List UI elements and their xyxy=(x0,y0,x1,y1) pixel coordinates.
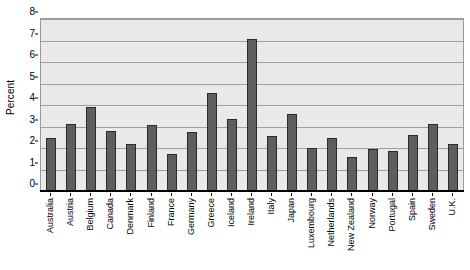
x-slot-austria: Austria xyxy=(60,193,80,267)
y-tick-mark-8 xyxy=(35,12,38,13)
bar-france xyxy=(167,154,177,191)
y-tick-mark-7 xyxy=(35,33,38,34)
x-slot-portugal: Portugal xyxy=(382,193,402,267)
bar-slot-denmark xyxy=(121,19,141,191)
plot-area xyxy=(40,18,464,192)
x-tick-label-netherlands: Netherlands xyxy=(327,198,336,247)
bar-slot-germany xyxy=(182,19,202,191)
bar-slot-italy xyxy=(262,19,282,191)
bar-chart-figure: Percent 012345678 AustraliaAustriaBelgiu… xyxy=(0,0,470,270)
y-tick-mark-0 xyxy=(35,184,38,185)
y-axis-tick-labels: 012345678 xyxy=(22,12,38,192)
x-tick-label-norway: Norway xyxy=(367,198,376,229)
y-axis-title-text: Percent xyxy=(6,80,17,115)
y-tick-mark-2 xyxy=(35,141,38,142)
x-tick-mark-12 xyxy=(291,193,292,196)
bar-sweden xyxy=(428,124,438,191)
x-tick-label-germany: Germany xyxy=(186,198,195,235)
x-tick-label-luxembourg: Luxembourg xyxy=(307,198,316,248)
y-tick-mark-1 xyxy=(35,162,38,163)
x-tick-mark-7 xyxy=(191,193,192,196)
bar-luxembourg xyxy=(307,148,317,191)
x-tick-mark-17 xyxy=(392,193,393,196)
x-tick-label-ireland: Ireland xyxy=(246,198,255,226)
bar-slot-new-zealand xyxy=(342,19,362,191)
x-tick-label-u-k: U.K. xyxy=(447,198,456,216)
bar-slot-france xyxy=(162,19,182,191)
bar-portugal xyxy=(388,151,398,191)
x-tick-mark-0 xyxy=(50,193,51,196)
x-tick-mark-3 xyxy=(110,193,111,196)
x-slot-greece: Greece xyxy=(201,193,221,267)
x-tick-mark-5 xyxy=(151,193,152,196)
x-tick-label-new-zealand: New Zealand xyxy=(347,198,356,251)
y-tick-mark-3 xyxy=(35,119,38,120)
x-slot-canada: Canada xyxy=(100,193,120,267)
bar-slot-australia xyxy=(41,19,61,191)
bar-japan xyxy=(287,114,297,191)
x-tick-label-denmark: Denmark xyxy=(126,198,135,235)
bar-slot-canada xyxy=(101,19,121,191)
x-tick-mark-10 xyxy=(251,193,252,196)
x-slot-spain: Spain xyxy=(402,193,422,267)
x-slot-iceland: Iceland xyxy=(221,193,241,267)
x-tick-label-belgium: Belgium xyxy=(86,198,95,231)
bar-slot-finland xyxy=(141,19,161,191)
bar-greece xyxy=(207,93,217,191)
x-tick-mark-16 xyxy=(372,193,373,196)
x-tick-mark-2 xyxy=(90,193,91,196)
bar-slot-japan xyxy=(282,19,302,191)
x-tick-mark-9 xyxy=(231,193,232,196)
bar-slot-austria xyxy=(61,19,81,191)
bar-slot-netherlands xyxy=(322,19,342,191)
x-tick-label-canada: Canada xyxy=(106,198,115,230)
bar-denmark xyxy=(126,144,136,191)
bar-slot-portugal xyxy=(383,19,403,191)
x-slot-germany: Germany xyxy=(181,193,201,267)
bar-u-k xyxy=(448,144,458,191)
x-tick-label-italy: Italy xyxy=(267,198,276,215)
x-tick-mark-4 xyxy=(130,193,131,196)
x-slot-france: France xyxy=(161,193,181,267)
x-tick-label-france: France xyxy=(166,198,175,226)
x-slot-sweden: Sweden xyxy=(422,193,442,267)
x-slot-new-zealand: New Zealand xyxy=(341,193,361,267)
x-slot-luxembourg: Luxembourg xyxy=(301,193,321,267)
x-tick-mark-14 xyxy=(331,193,332,196)
x-tick-mark-13 xyxy=(311,193,312,196)
bar-italy xyxy=(267,136,277,191)
bar-slot-greece xyxy=(202,19,222,191)
bar-slot-u-k xyxy=(443,19,463,191)
x-tick-label-austria: Austria xyxy=(66,198,75,226)
bar-slot-spain xyxy=(403,19,423,191)
x-tick-label-portugal: Portugal xyxy=(387,198,396,232)
x-slot-japan: Japan xyxy=(281,193,301,267)
bar-spain xyxy=(408,135,418,191)
x-slot-finland: Finland xyxy=(140,193,160,267)
x-slot-ireland: Ireland xyxy=(241,193,261,267)
x-tick-label-iceland: Iceland xyxy=(226,198,235,227)
x-tick-label-spain: Spain xyxy=(407,198,416,221)
x-tick-mark-15 xyxy=(351,193,352,196)
x-tick-mark-8 xyxy=(211,193,212,196)
x-tick-label-japan: Japan xyxy=(287,198,296,223)
bar-austria xyxy=(66,124,76,191)
x-tick-label-sweden: Sweden xyxy=(427,198,436,231)
bar-ireland xyxy=(247,39,257,191)
x-slot-u-k: U.K. xyxy=(442,193,462,267)
x-tick-mark-18 xyxy=(412,193,413,196)
bar-slot-iceland xyxy=(222,19,242,191)
x-tick-mark-1 xyxy=(70,193,71,196)
x-axis-line xyxy=(40,190,464,192)
y-tick-mark-6 xyxy=(35,55,38,56)
x-tick-mark-11 xyxy=(271,193,272,196)
x-tick-mark-20 xyxy=(452,193,453,196)
bar-canada xyxy=(106,131,116,191)
bar-norway xyxy=(368,149,378,191)
bar-australia xyxy=(46,138,56,191)
bar-slot-ireland xyxy=(242,19,262,191)
x-tick-mark-6 xyxy=(171,193,172,196)
y-tick-mark-5 xyxy=(35,76,38,77)
bar-finland xyxy=(147,125,157,191)
x-slot-belgium: Belgium xyxy=(80,193,100,267)
